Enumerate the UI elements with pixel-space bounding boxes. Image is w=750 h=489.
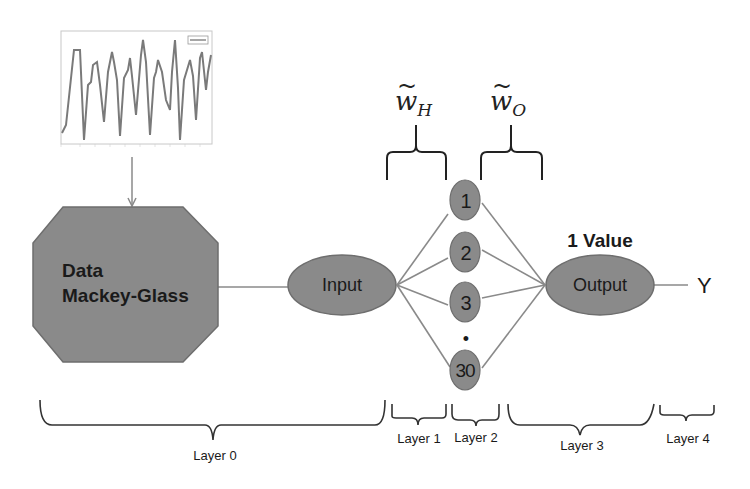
layer-1-label: Layer 1 xyxy=(397,431,440,446)
diagram-canvas: Data Mackey-Glass Input 1 2 3 • 30 Outpu… xyxy=(0,0,750,489)
inset-plot xyxy=(61,31,212,147)
layer-3-brace xyxy=(508,404,654,435)
weight-output-sub: O xyxy=(512,100,526,120)
weight-brace-hidden xyxy=(387,125,446,180)
input-node-label: Input xyxy=(322,275,362,295)
weight-label-hidden: ~ wH xyxy=(395,86,432,120)
hidden-node-3-label: 3 xyxy=(460,292,471,314)
hidden-node-30-label: 30 xyxy=(455,360,475,381)
layer-0-brace xyxy=(40,400,385,440)
hidden-node-2-label: 2 xyxy=(460,242,471,264)
layer-2-label: Layer 2 xyxy=(454,430,497,445)
weight-hidden-sub: H xyxy=(417,100,432,120)
layer-4-brace xyxy=(660,405,714,421)
layer-0-label: Layer 0 xyxy=(193,448,236,463)
data-node-line1: Data xyxy=(62,260,104,281)
weight-label-output: ~ wO xyxy=(490,86,526,120)
output-symbol-y: Y xyxy=(697,273,712,298)
layer-1-brace xyxy=(392,404,446,425)
tilde-hidden: ~ xyxy=(397,72,417,100)
layer-2-brace xyxy=(452,404,499,426)
plot-to-data-arrow xyxy=(128,157,136,206)
tilde-output: ~ xyxy=(492,72,512,100)
layer-3-label: Layer 3 xyxy=(560,438,603,453)
output-annotation: 1 Value xyxy=(567,230,633,251)
output-node-label: Output xyxy=(573,275,627,295)
hidden-node-1-label: 1 xyxy=(460,190,471,212)
layer-4-label: Layer 4 xyxy=(666,431,709,446)
ellipsis-dot: • xyxy=(463,329,469,349)
data-node-line2: Mackey-Glass xyxy=(62,285,189,306)
weight-brace-output xyxy=(481,125,542,180)
